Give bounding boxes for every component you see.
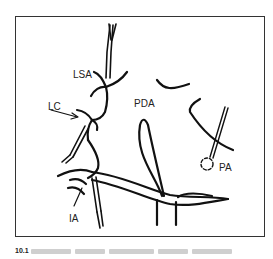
pda-structure [139, 120, 212, 225]
vascular-ring-diagram [0, 0, 273, 259]
caption-text-blurred [109, 249, 154, 254]
caption-text-blurred [31, 249, 71, 254]
lsa-clamp [106, 24, 116, 78]
label-lc: LC [48, 102, 61, 112]
caption-text-blurred [75, 249, 105, 254]
lc-branch [51, 110, 97, 140]
caption-text-blurred [192, 249, 232, 254]
lsa-branch [91, 72, 127, 120]
pa-dashed-circle [201, 158, 213, 170]
caption-text-blurred [158, 249, 188, 254]
label-ia: IA [69, 214, 78, 224]
label-pda: PDA [134, 99, 155, 109]
caption-number: 10.1 [15, 247, 29, 254]
pa-clamp [210, 107, 228, 158]
label-lsa: LSA [73, 70, 92, 80]
ia-clamp [92, 177, 103, 228]
pulmonary-artery [157, 80, 233, 150]
label-pa: PA [219, 163, 232, 173]
ia-arrow [74, 188, 82, 206]
figure-caption: 10.1 [15, 247, 265, 255]
lc-clamp [62, 126, 88, 163]
